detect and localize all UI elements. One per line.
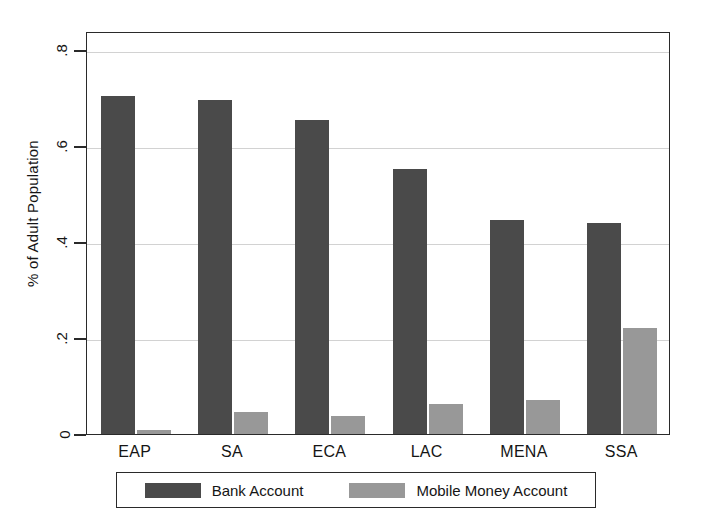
bar-lac-bank-account xyxy=(393,169,427,434)
bar-chart-figure: % of Adult Population 0.2.4.6.8 EAPSAECA… xyxy=(0,0,711,520)
y-tick-label: .2 xyxy=(28,330,68,347)
chart-legend: Bank Account Mobile Money Account xyxy=(116,472,596,508)
gridline xyxy=(87,52,669,53)
bar-eca-mobile-money-account xyxy=(331,416,365,434)
x-axis-label-sa: SA xyxy=(183,443,280,461)
x-axis-label-eca: ECA xyxy=(281,443,378,461)
bar-sa-bank-account xyxy=(198,100,232,434)
x-axis-label-mena: MENA xyxy=(475,443,572,461)
legend-item-bank-account: Bank Account xyxy=(145,482,304,499)
bar-ssa-mobile-money-account xyxy=(623,328,657,435)
legend-label-bank-account: Bank Account xyxy=(212,482,304,499)
x-axis-label-lac: LAC xyxy=(378,443,475,461)
x-axis-label-eap: EAP xyxy=(86,443,183,461)
y-tick-label-text: .6 xyxy=(53,140,70,153)
y-axis-title: % of Adult Population xyxy=(24,64,41,364)
bar-eca-bank-account xyxy=(295,120,329,434)
gridline xyxy=(87,340,669,341)
legend-swatch-bank-account xyxy=(145,483,201,498)
plot-area xyxy=(86,32,670,435)
y-tick-label-text: 0 xyxy=(55,430,72,438)
bar-lac-mobile-money-account xyxy=(429,404,463,434)
gridline xyxy=(87,148,669,149)
bar-eap-mobile-money-account xyxy=(137,430,171,434)
y-tick-label: .4 xyxy=(28,234,68,251)
y-tick-mark xyxy=(74,338,86,340)
y-tick-label-text: .4 xyxy=(53,236,70,249)
y-tick-mark xyxy=(74,50,86,52)
gridline xyxy=(87,244,669,245)
y-tick-label: .6 xyxy=(28,138,68,155)
x-axis-label-ssa: SSA xyxy=(573,443,670,461)
bar-sa-mobile-money-account xyxy=(234,412,268,434)
legend-label-mobile-money-account: Mobile Money Account xyxy=(416,482,567,499)
y-tick-label-text: .8 xyxy=(53,44,70,57)
y-tick-label: 0 xyxy=(28,426,68,443)
legend-swatch-mobile-money-account xyxy=(349,483,405,498)
y-tick-label-text: .2 xyxy=(53,332,70,345)
bar-mena-bank-account xyxy=(490,220,524,434)
legend-item-mobile-money-account: Mobile Money Account xyxy=(349,482,567,499)
y-tick-mark xyxy=(74,242,86,244)
y-tick-mark xyxy=(74,434,86,436)
bar-eap-bank-account xyxy=(101,96,135,434)
y-tick-label: .8 xyxy=(28,42,68,59)
bar-ssa-bank-account xyxy=(587,223,621,434)
y-tick-mark xyxy=(74,146,86,148)
bar-mena-mobile-money-account xyxy=(526,400,560,434)
